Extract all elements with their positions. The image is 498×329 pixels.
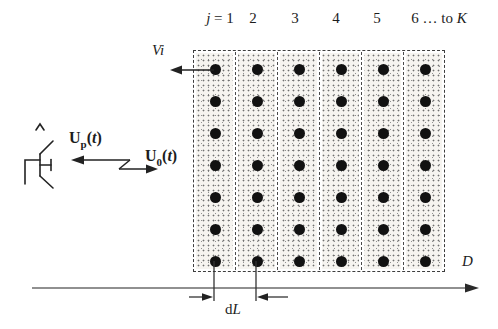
column-divider — [233, 52, 238, 270]
dl-label: dL — [225, 301, 241, 318]
column-header-5: 5 — [373, 10, 381, 27]
particle-dot — [378, 224, 389, 235]
column-header-6-to-k: 6 … to K — [411, 10, 466, 27]
column-divider — [317, 52, 322, 270]
figure-canvas: j = 1 2 3 4 5 6 … to K Vi Up(t) U0(t) D … — [0, 0, 498, 329]
particle-dot — [210, 160, 221, 171]
particle-dot — [336, 224, 347, 235]
particle-dot — [378, 256, 389, 267]
u0-label: U0(t) — [145, 147, 177, 167]
particle-dot — [336, 64, 347, 75]
vi-label: Vi — [152, 42, 164, 59]
particle-dot — [294, 96, 305, 107]
particle-dot — [378, 160, 389, 171]
particle-dot — [420, 192, 431, 203]
particle-dot — [336, 256, 347, 267]
column-divider — [359, 52, 364, 270]
dl-right-arrowhead — [202, 293, 213, 301]
particle-dot — [252, 256, 263, 267]
particle-dot — [336, 160, 347, 171]
particle-dot — [378, 96, 389, 107]
particle-dot — [210, 256, 221, 267]
particle-dot — [420, 256, 431, 267]
column-header-k-variable: K — [457, 10, 467, 26]
d-axis-arrow — [32, 284, 479, 293]
particle-dot — [252, 192, 263, 203]
dl-left-arrowhead — [257, 293, 268, 301]
particle-dot — [336, 96, 347, 107]
particle-dot — [210, 224, 221, 235]
particle-dot — [420, 128, 431, 139]
particle-dot — [336, 128, 347, 139]
particle-dot — [378, 64, 389, 75]
transducer-icon — [25, 124, 53, 188]
column-header-2: 2 — [249, 10, 257, 27]
particle-dot — [420, 96, 431, 107]
particle-dot — [294, 128, 305, 139]
column-header-3: 3 — [291, 10, 299, 27]
up-label: Up(t) — [69, 129, 102, 149]
particle-dot — [210, 96, 221, 107]
particle-dot — [294, 192, 305, 203]
particle-dot — [252, 64, 263, 75]
particle-region — [193, 50, 445, 272]
particle-dot — [210, 64, 221, 75]
particle-dot — [294, 256, 305, 267]
column-divider — [401, 52, 406, 270]
column-divider — [275, 52, 280, 270]
particle-dot — [336, 192, 347, 203]
column-header-4: 4 — [332, 10, 340, 27]
particle-dot — [420, 64, 431, 75]
particle-dot — [252, 160, 263, 171]
particle-dot — [294, 64, 305, 75]
particle-dot — [294, 160, 305, 171]
particle-dot — [252, 128, 263, 139]
particle-dot — [420, 224, 431, 235]
d-axis-label: D — [462, 253, 473, 270]
particle-dot — [378, 128, 389, 139]
particle-dot — [210, 192, 221, 203]
particle-dot — [378, 192, 389, 203]
particle-dot — [252, 96, 263, 107]
particle-dot — [210, 128, 221, 139]
particle-dot — [252, 224, 263, 235]
column-header-1: j = 1 — [206, 10, 234, 27]
particle-dot — [294, 224, 305, 235]
particle-dot — [420, 160, 431, 171]
